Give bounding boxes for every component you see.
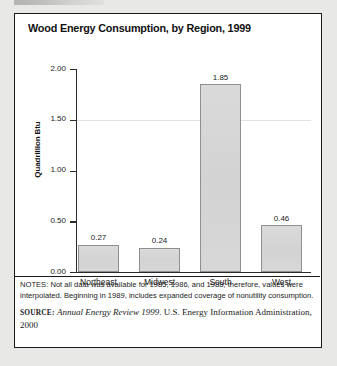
bar-value-northeast: 0.27 [78,233,119,242]
figure-footnotes: NOTES: Not all data was available for 19… [20,279,316,331]
notes-divider [15,276,320,277]
notes-label: NOTES: [20,280,48,289]
figure-container: Wood Energy Consumption, by Region, 1999… [14,13,322,348]
bar-northeast[interactable] [78,245,119,272]
source-paragraph: SOURCE: Annual Energy Review 1999. U.S. … [20,306,316,331]
notes-body: Not all data was available for 1985, 198… [20,280,313,300]
bar-south[interactable] [200,84,241,272]
bar-value-south: 1.85 [200,73,241,82]
page-scan-artifact [14,0,104,5]
bar-value-west: 0.46 [261,214,302,223]
notes-paragraph: NOTES: Not all data was available for 19… [20,279,316,302]
chart-plot-area: Quadrillion Btu 2.00 1.50 1.00 0.50 0.00… [15,40,321,290]
bars-layer: 0.27 Northeast 0.24 Midwest 1.85 South 0… [15,40,321,290]
bar-midwest[interactable] [139,248,180,272]
source-title: Annual Energy Review 1999 [57,307,159,317]
source-label: SOURCE: [20,308,55,317]
figure-title: Wood Energy Consumption, by Region, 1999 [28,22,251,34]
bar-value-midwest: 0.24 [139,236,180,245]
bar-west[interactable] [261,225,302,272]
